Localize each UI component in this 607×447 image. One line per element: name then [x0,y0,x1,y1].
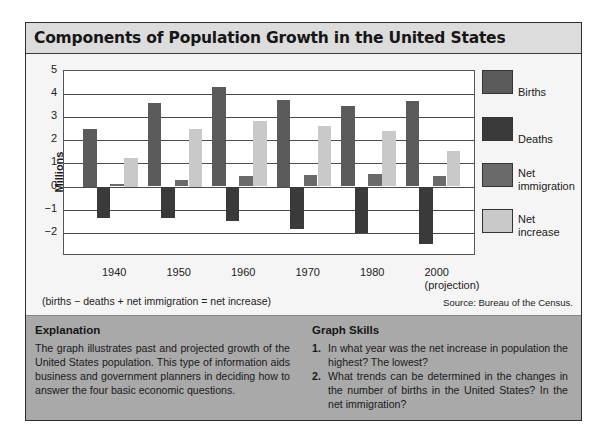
y-tick-label: −2 [31,225,57,237]
bar-net-increase [318,126,332,186]
bar-net-increase [447,151,461,187]
source-note: Source: Bureau of the Census. [443,297,573,308]
bar-net-increase [189,129,203,187]
legend-label: Netincrease [518,213,560,239]
question-text: In what year was the net increase in pop… [328,341,568,369]
bar-net-immigration [368,174,382,187]
bar-deaths [97,187,111,218]
x-tick-label: 2000(projection) [425,266,480,292]
bar-deaths [161,187,175,218]
question-list: 1. In what year was the net increase in … [312,341,568,411]
bar-deaths [290,187,304,230]
y-tick-label: −1 [31,202,57,214]
formula-note: (births − deaths + net immigration = net… [42,295,271,307]
y-tick-label: 4 [31,86,57,98]
legend-label: Netimmigration [518,167,575,193]
chart-panel: Millions 543210−1−2 19401950196019701980… [26,54,581,316]
y-tick-label: 1 [31,155,57,167]
bar-net-increase [382,131,396,186]
explanation-heading: Explanation [35,324,290,336]
figure-frame: Components of Population Growth in the U… [25,22,582,421]
question-item: 2. What trends can be determined in the … [312,369,568,411]
legend-label: Deaths [518,133,553,146]
graph-skills-heading: Graph Skills [312,324,568,336]
question-item: 1. In what year was the net increase in … [312,341,568,369]
y-tick-label: 3 [31,109,57,121]
title-bar: Components of Population Growth in the U… [26,23,581,54]
gridline [64,94,474,95]
graph-skills-section: Graph Skills 1. In what year was the net… [312,324,568,411]
x-tick-label: 1960 [231,266,255,279]
gridline [64,233,474,234]
bar-net-immigration [433,176,447,186]
legend-swatch [482,209,513,233]
gridline [64,210,474,211]
legend-label: Births [518,86,546,99]
question-number: 2. [312,369,328,411]
bar-births [83,129,97,187]
bar-deaths [355,187,369,233]
y-tick-label: 0 [31,179,57,191]
x-tick-label: 1940 [102,266,126,279]
legend-swatch [482,163,513,187]
chart-title: Components of Population Growth in the U… [34,29,505,47]
y-tick-label: 5 [31,63,57,75]
question-number: 1. [312,341,328,369]
x-tick-label: 1970 [296,266,320,279]
bar-births [406,101,420,186]
explanation-section: Explanation The graph illustrates past a… [35,324,290,397]
bar-net-immigration [304,175,318,187]
bar-net-immigration [110,184,124,186]
legend-swatch [482,117,513,141]
x-tick-label: 1980 [360,266,384,279]
plot-area [63,70,475,255]
x-tick-label: 1950 [167,266,191,279]
bar-net-immigration [175,180,189,187]
bar-net-increase [253,121,267,187]
bar-deaths [226,187,240,222]
info-section: Explanation The graph illustrates past a… [26,315,581,420]
bar-births [148,103,162,186]
legend-swatch [482,70,513,94]
bar-deaths [419,187,433,245]
question-text: What trends can be determined in the cha… [328,369,568,411]
bar-net-increase [124,158,138,187]
bar-births [277,100,291,187]
y-tick-label: 2 [31,132,57,144]
gridline [64,187,474,188]
bar-births [212,87,226,186]
bar-net-immigration [239,176,253,186]
explanation-text: The graph illustrates past and projected… [35,341,290,397]
bar-births [341,106,355,187]
